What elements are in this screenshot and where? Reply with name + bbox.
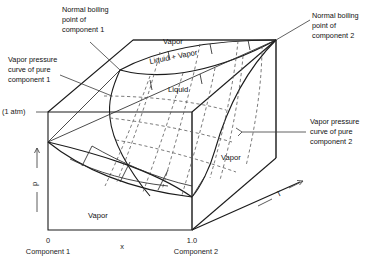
- front-grid-tick-4: [192, 176, 205, 197]
- vpc1-line-1: Vapor pressure: [8, 55, 57, 64]
- isotherm-1: [110, 118, 232, 142]
- pressure-axis-label: p: [30, 182, 39, 186]
- top-face-phase-boundaries: [120, 40, 276, 75]
- x-max-component-label: Component 2: [174, 247, 218, 256]
- top-right-depth-edge: [192, 40, 276, 112]
- front-grid-tick-1: [82, 146, 92, 166]
- t-axis-edge: [192, 182, 300, 230]
- x-min-tick-label: 0: [46, 236, 50, 245]
- nbp2-line-1: Normal boiling: [312, 11, 359, 20]
- front-face-outline: [48, 112, 192, 230]
- t-axis-shaft-upper: [289, 181, 303, 188]
- x-max-tick-label: 1.0: [187, 236, 197, 245]
- mid-tick-1: [200, 74, 202, 84]
- vpc1-line-3: component 1: [8, 75, 50, 84]
- nbp2-line-2: point of: [312, 21, 337, 30]
- top-left-back-edges: [48, 40, 276, 112]
- annotation-vpc-component-1: Vapor pressure curve of pure component 1: [8, 55, 112, 96]
- vpc2-arrow-head-a: [236, 128, 242, 132]
- vpc2-line-1: Vapor pressure: [310, 117, 359, 126]
- vpc2-line-2: curve of pure: [310, 127, 353, 136]
- annotation-nbp-component-1: Normal boiling point of component 1: [62, 5, 120, 70]
- nbp1-line-1: Normal boiling: [62, 5, 109, 14]
- vapor-pressure-curve-component-1: [109, 70, 150, 196]
- phase-diagram-figure: (1 atm) p 0 1.0 Component 1 Component 2 …: [0, 0, 381, 265]
- nbp1-line-2: point of: [62, 15, 87, 24]
- one-atm-reference: (1 atm): [2, 107, 48, 116]
- vpc2-arrow-head-b: [238, 132, 242, 136]
- pressure-axis: p: [30, 148, 40, 212]
- nbp1-leader-line: [90, 42, 120, 70]
- temperature-axis: T: [258, 181, 303, 207]
- region-liquid: Liquid: [168, 85, 188, 94]
- top-tick-3: [248, 40, 250, 50]
- vpc1-line-2: curve of pure: [8, 65, 51, 74]
- x-min-component-label: Component 1: [26, 247, 70, 256]
- dew-point-curve: [120, 40, 276, 70]
- nbp1-line-3: component 1: [62, 25, 104, 34]
- region-vapor-right: Vapor: [221, 153, 241, 162]
- front-surface-grid: [70, 146, 205, 197]
- vapor-pressure-curve-component-2: [192, 40, 276, 197]
- one-atm-label: (1 atm): [2, 107, 25, 116]
- region-vapor-top: Vapor: [163, 37, 183, 46]
- composition-axis-label: x: [120, 242, 124, 251]
- box-wireframe: [48, 40, 300, 230]
- annotation-vpc-component-2: Vapor pressure curve of pure component 2: [236, 117, 359, 146]
- region-vapor-front: Vapor: [88, 211, 108, 220]
- composition-axis: 0 1.0 Component 1 Component 2 x: [26, 236, 218, 256]
- vpc2-line-3: component 2: [310, 137, 352, 146]
- nbp2-leader-line: [276, 20, 310, 40]
- isopleth-dew-2: [162, 44, 200, 190]
- phase-diagram-svg: (1 atm) p 0 1.0 Component 1 Component 2 …: [0, 0, 381, 265]
- top-tick-2: [210, 44, 212, 54]
- surface-grid-dashed: [104, 41, 262, 195]
- annotation-nbp-component-2: Normal boiling point of component 2: [276, 11, 359, 40]
- t-axis-arrow-head-a: [297, 181, 303, 182]
- bottom-right-depth-edge: [192, 158, 276, 230]
- front-grid-line-2: [92, 146, 192, 186]
- nbp2-line-3: component 2: [312, 31, 354, 40]
